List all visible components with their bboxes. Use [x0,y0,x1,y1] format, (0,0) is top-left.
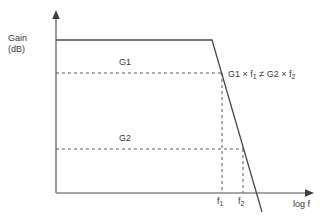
equation-term2-freq-subscript: 2 [292,73,296,80]
y-axis [52,10,60,193]
equation-term1-gain: G1 [228,69,240,79]
x-tick-f1-subscript: 1 [220,200,224,207]
equation-term2-gain: G2 [267,69,279,79]
equation-term1-freq-subscript: 1 [253,73,257,80]
y-axis-label-line1: Gain [8,33,27,43]
y-axis-label-line2: (dB) [8,44,27,55]
x-tick-label-f1: f1 [217,196,223,207]
arrow-up-icon [52,10,60,19]
gain-response-curve [56,40,262,212]
plot-canvas [0,0,334,220]
equation-multiply-2: × [281,69,286,79]
equation-annotation: G1 × f1 ≠ G2 × f2 [228,69,295,80]
arrow-right-icon [305,189,314,197]
equation-relation: ≠ [259,69,264,79]
gain-level-1-label: G1 [119,57,131,68]
x-axis [56,189,314,197]
y-axis-label: Gain (dB) [8,33,27,55]
equation-multiply-1: × [243,69,248,79]
gain-level-2-label: G2 [119,133,131,144]
x-tick-f2-subscript: 2 [241,200,245,207]
x-axis-label: log f [293,199,310,210]
bode-plot-figure: Gain (dB) G1 G2 G1 × f1 ≠ G2 × f2 f1 f2 … [0,0,334,220]
x-tick-label-f2: f2 [238,196,244,207]
